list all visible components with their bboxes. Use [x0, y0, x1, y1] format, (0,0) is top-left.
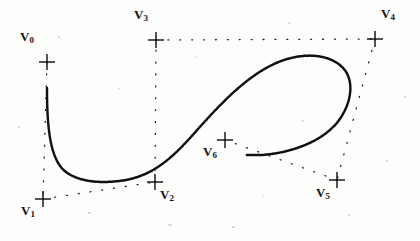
- control-point-label-v2-index: 2: [169, 193, 174, 203]
- control-point-label-v3-index: 3: [143, 13, 148, 23]
- control-point-label-v4-letter: V: [381, 6, 390, 21]
- control-point-label-v0-index: 0: [29, 35, 34, 45]
- control-point-label-v0: V0: [20, 30, 34, 45]
- control-point-label-v0-letter: V: [20, 29, 29, 44]
- control-point-label-v5-index: 5: [325, 191, 330, 201]
- control-point-label-v6-index: 6: [212, 150, 217, 160]
- polygon-segment-v3-v4: [156, 39, 375, 40]
- control-point-label-v1-letter: V: [21, 203, 30, 218]
- polygon-segment-v4-v5: [337, 39, 375, 180]
- control-point-label-v2: V2: [160, 188, 174, 203]
- control-point-marker-v1[interactable]: [35, 191, 51, 207]
- control-point-marker-v4[interactable]: [367, 31, 383, 47]
- control-point-marker-v3[interactable]: [148, 32, 164, 48]
- polygon-segment-v0-v1: [43, 62, 47, 199]
- control-point-label-v2-letter: V: [160, 187, 169, 202]
- control-point-label-v6-letter: V: [203, 144, 212, 159]
- control-point-label-v4-index: 4: [390, 12, 395, 22]
- control-point-label-v1-index: 1: [30, 209, 35, 219]
- polygon-segment-v1-v2: [43, 182, 155, 199]
- control-point-label-v5: V5: [316, 186, 330, 201]
- polygon-segment-v2-v3: [155, 40, 156, 182]
- control-point-label-v6: V6: [203, 145, 217, 160]
- control-point-label-v5-letter: V: [316, 185, 325, 200]
- control-point-marker-v5[interactable]: [329, 172, 345, 188]
- control-polygon: [43, 39, 375, 199]
- control-point-marker-v0[interactable]: [39, 54, 55, 70]
- control-point-label-v4: V4: [381, 7, 395, 22]
- polygon-segment-v5-v6: [225, 140, 337, 180]
- bspline-curve-path: [47, 56, 350, 182]
- bspline-figure: [0, 0, 420, 241]
- control-point-label-v3-letter: V: [134, 7, 143, 22]
- control-point-marker-v6[interactable]: [217, 132, 233, 148]
- control-point-label-v1: V1: [21, 204, 35, 219]
- bspline-curve: [47, 56, 350, 182]
- control-point-label-v3: V3: [134, 8, 148, 23]
